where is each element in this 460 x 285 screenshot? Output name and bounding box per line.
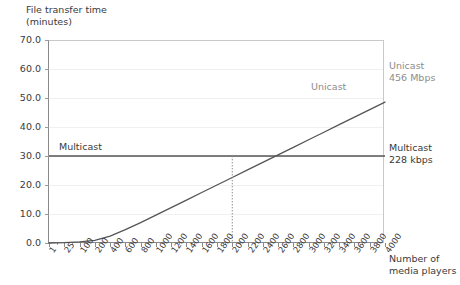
y-axis-title: File transfer time (minutes) [26,4,107,27]
multicast-callout: Multicast 228 kbps [389,142,433,165]
unicast-callout: Unicast 456 Mbps [389,60,435,83]
plot-area: Unicast Multicast [48,40,384,243]
y-axis-tick-label: 70.0 [0,34,41,45]
y-axis-tick-label: 60.0 [0,63,41,74]
x-axis-tick-label: 1 [47,245,58,255]
y-axis-tick-label: 50.0 [0,92,41,103]
y-axis-tick-label: 10.0 [0,208,41,219]
unicast-line [49,102,385,243]
x-axis-labels: 1251002004006008001000120014001600180020… [48,247,384,285]
y-axis-tick-label: 40.0 [0,121,41,132]
multicast-inline-label: Multicast [59,141,102,152]
chart-root: File transfer time (minutes) Number of m… [0,0,460,285]
y-axis-tick-label: 30.0 [0,150,41,161]
unicast-inline-label: Unicast [311,81,346,92]
x-axis-title: Number of media players [389,253,456,276]
y-axis-tick-label: 0.0 [0,237,41,248]
y-axis-tick-label: 20.0 [0,179,41,190]
